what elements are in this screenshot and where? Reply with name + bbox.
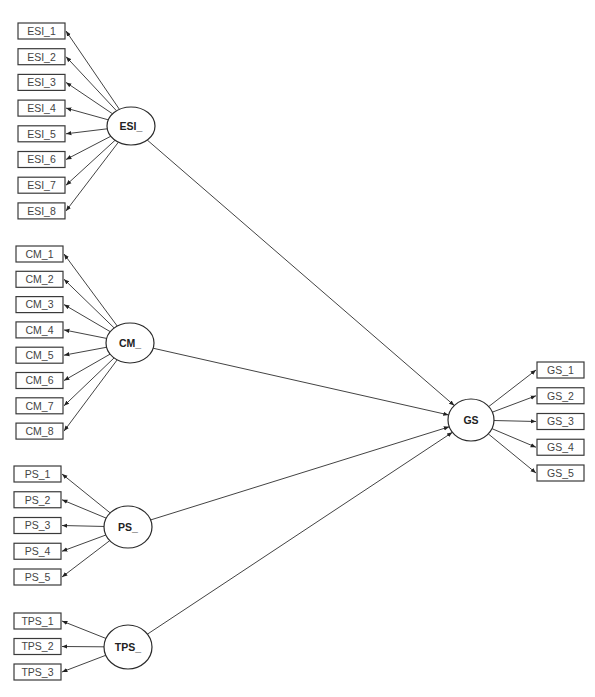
indicator-label: CM_6 [25,374,53,386]
indicator-label: TPS_3 [21,666,53,678]
sem-diagram: ESI_1ESI_2ESI_3ESI_4ESI_5ESI_6ESI_7ESI_8… [0,0,595,697]
indicator-label: ESI_4 [27,102,56,114]
indicator-esi-7: ESI_7 [18,177,65,193]
indicator-label: CM_5 [25,349,53,361]
indicator-label: CM_2 [25,273,53,285]
loading-arrow [64,354,110,380]
loading-arrow [62,526,104,527]
loading-arrow [62,541,110,577]
loading-arrow [64,305,110,332]
loading-arrow [66,108,108,120]
indicator-tps-2: TPS_2 [14,639,61,655]
indicator-esi-2: ESI_2 [18,49,65,65]
indicator-esi-4: ESI_4 [18,100,65,116]
indicator-label: CM_3 [25,298,53,310]
indicator-ps-3: PS_3 [14,518,61,534]
indicator-gs-1: GS_1 [537,362,584,378]
indicator-cm-2: CM_2 [16,271,63,287]
indicator-label: GS_2 [547,390,574,402]
loading-arrow [64,358,114,406]
latent-label: GS [463,414,478,426]
indicator-esi-3: ESI_3 [18,74,65,90]
indicator-label: GS_4 [547,441,574,453]
loading-arrow [62,474,110,513]
indicator-gs-5: GS_5 [537,465,584,481]
latent-label: TPS_ [115,641,141,653]
indicator-label: GS_3 [547,415,574,427]
indicator-cm-6: CM_6 [16,373,63,389]
indicator-label: CM_8 [25,425,53,437]
indicator-label: ESI_5 [27,128,56,140]
indicator-ps-5: PS_5 [14,569,61,585]
path-arrow-cm-to-gs [153,348,449,415]
loading-arrow [64,347,107,355]
loading-arrow [64,360,117,431]
indicator-tps-1: TPS_1 [14,613,61,629]
loading-arrow [62,500,106,518]
loading-arrow [66,31,119,109]
latent-tps: TPS_ [104,625,152,669]
latent-label: PS_ [118,521,138,533]
loading-arrow [494,421,536,422]
loading-arrow [64,330,107,339]
loading-arrow [64,279,114,328]
loading-arrow [66,57,117,111]
latent-cm: CM_ [106,323,154,363]
indicator-gs-2: GS_2 [537,388,584,404]
indicator-gs-3: GS_3 [537,414,584,430]
indicator-label: TPS_1 [21,615,53,627]
indicator-esi-1: ESI_1 [18,23,65,39]
latent-ps: PS_ [104,506,152,548]
indicator-ps-4: PS_4 [14,543,61,559]
indicator-ps-2: PS_2 [14,492,61,508]
indicator-ps-1: PS_1 [14,466,61,482]
indicator-label: PS_2 [25,494,51,506]
indicator-label: ESI_1 [27,25,56,37]
indicator-esi-5: ESI_5 [18,126,65,142]
loading-arrow [66,129,107,134]
indicator-label: PS_5 [25,571,51,583]
indicator-label: CM_7 [25,400,53,412]
loading-arrow [64,254,117,326]
indicator-label: CM_1 [25,248,53,260]
indicator-cm-3: CM_3 [16,297,63,313]
indicator-gs-4: GS_4 [537,439,584,455]
latent-label: ESI_ [120,120,143,132]
loading-arrow [66,136,111,159]
loading-arrow [489,370,536,407]
indicator-label: ESI_6 [27,153,56,165]
path-arrow-tps-to-gs [147,432,452,634]
indicator-label: CM_4 [25,324,53,336]
loading-arrow [62,621,106,638]
latent-label: CM_ [119,337,141,349]
indicator-tps-3: TPS_3 [14,664,61,680]
indicator-cm-1: CM_1 [16,246,63,262]
indicator-cm-4: CM_4 [16,322,63,338]
indicator-esi-6: ESI_6 [18,152,65,168]
indicator-cm-8: CM_8 [16,423,63,439]
indicator-label: PS_1 [25,468,51,480]
loading-arrow [488,434,536,473]
nodes-layer: ESI_1ESI_2ESI_3ESI_4ESI_5ESI_6ESI_7ESI_8… [14,23,584,680]
loading-arrow [492,429,536,448]
latent-gs: GS [448,399,494,441]
loading-arrow [66,82,113,113]
indicator-label: ESI_8 [27,205,56,217]
indicator-esi-8: ESI_8 [18,203,65,219]
indicator-label: PS_4 [25,545,51,557]
path-arrow-ps-to-gs [151,427,450,520]
indicator-cm-5: CM_5 [16,347,63,363]
indicator-label: ESI_7 [27,179,56,191]
indicator-cm-7: CM_7 [16,398,63,414]
indicator-label: ESI_2 [27,51,56,63]
indicator-label: GS_1 [547,364,574,376]
path-arrow-esi-to-gs [147,140,454,406]
indicator-label: PS_3 [25,519,51,531]
latent-esi: ESI_ [107,107,155,145]
indicator-label: ESI_3 [27,76,56,88]
loading-arrow [66,142,118,211]
indicator-label: TPS_2 [21,640,53,652]
loading-arrow [62,655,106,672]
indicator-label: GS_5 [547,467,574,479]
